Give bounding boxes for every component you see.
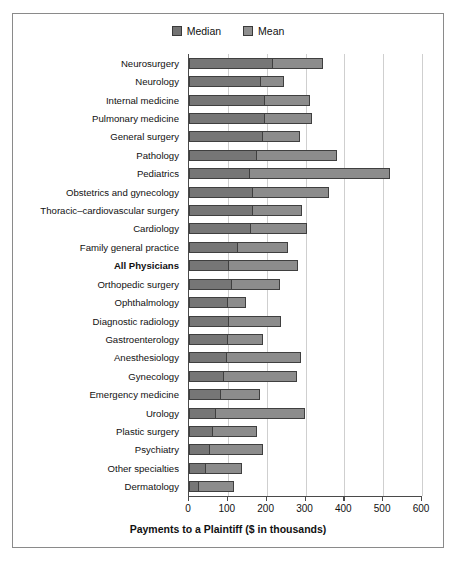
x-axis-tick (188, 496, 189, 501)
bar-segment-mean (199, 481, 234, 492)
bar-segment-median (189, 187, 253, 198)
bar-segment-mean (228, 297, 247, 308)
category-label: Internal medicine (106, 95, 179, 106)
bar-row[interactable] (189, 426, 257, 437)
bar-segment-median (189, 426, 213, 437)
bar-segment-median (189, 131, 263, 142)
bar-row[interactable] (189, 297, 246, 308)
x-axis-tick (266, 496, 267, 501)
category-label: Pathology (136, 150, 179, 161)
plot-area (188, 54, 421, 496)
x-axis-tick-label: 300 (296, 503, 313, 514)
x-axis-tick (382, 496, 383, 501)
bar-segment-median (189, 242, 238, 253)
chart-legend: Median Mean (13, 25, 443, 37)
category-label: Obstetrics and gynecology (66, 187, 179, 198)
bar-segment-median (189, 334, 228, 345)
legend-label-median: Median (187, 25, 221, 37)
category-label: Cardiology (133, 223, 179, 234)
bar-segment-mean (250, 168, 390, 179)
x-axis-tick-label: 200 (257, 503, 274, 514)
x-axis-tick-label: 400 (335, 503, 352, 514)
bar-segment-median (189, 316, 229, 327)
bar-segment-median (189, 279, 232, 290)
bar-row[interactable] (189, 223, 307, 234)
x-axis-tick (305, 496, 306, 501)
category-label: Emergency medicine (89, 389, 179, 400)
category-label: Other specialties (108, 463, 179, 474)
legend-item-median: Median (172, 25, 221, 37)
figure-panel: Median Mean NeurosurgeryNeurologyInterna… (12, 13, 444, 548)
bar-row[interactable] (189, 371, 297, 382)
x-axis-title: Payments to a Plaintiff ($ in thousands) (13, 523, 443, 535)
bar-segment-mean (216, 408, 305, 419)
bar-row[interactable] (189, 242, 288, 253)
bar-row[interactable] (189, 279, 280, 290)
bar-segment-median (189, 371, 224, 382)
bar-row[interactable] (189, 76, 284, 87)
bar-row[interactable] (189, 168, 390, 179)
bar-segment-mean (224, 371, 297, 382)
bar-segment-mean (263, 131, 301, 142)
bar-row[interactable] (189, 316, 281, 327)
x-axis-tick (343, 496, 344, 501)
bar-row[interactable] (189, 352, 301, 363)
legend-swatch-mean-icon (243, 26, 253, 36)
category-label: Gastroenterology (105, 334, 179, 345)
bar-row[interactable] (189, 113, 312, 124)
legend-item-mean: Mean (243, 25, 284, 37)
bar-segment-median (189, 352, 227, 363)
bar-row[interactable] (189, 187, 329, 198)
bar-segment-median (189, 76, 261, 87)
category-axis-labels: NeurosurgeryNeurologyInternal medicinePu… (13, 54, 184, 496)
bar-segment-median (189, 260, 229, 271)
category-label: Thoracic–cardiovascular surgery (40, 205, 179, 216)
x-axis-tick-label: 0 (185, 503, 191, 514)
category-label: Gynecology (128, 371, 179, 382)
bar-row[interactable] (189, 150, 337, 161)
bar-segment-mean (229, 316, 281, 327)
bar-segment-median (189, 150, 257, 161)
bar-segment-mean (265, 95, 310, 106)
category-label: General surgery (110, 131, 179, 142)
bar-segment-mean (273, 58, 323, 69)
bar-row[interactable] (189, 58, 323, 69)
bar-row[interactable] (189, 389, 260, 400)
category-label: Diagnostic radiology (93, 316, 179, 327)
x-axis-tick (227, 496, 228, 501)
bar-segment-mean (227, 352, 301, 363)
bar-segment-mean (232, 279, 281, 290)
category-label: Dermatology (125, 481, 179, 492)
bar-row[interactable] (189, 481, 234, 492)
bar-row[interactable] (189, 95, 310, 106)
legend-label-mean: Mean (258, 25, 284, 37)
x-axis-tick-label: 500 (374, 503, 391, 514)
bar-row[interactable] (189, 131, 300, 142)
category-label: Pulmonary medicine (92, 113, 179, 124)
bar-segment-mean (261, 76, 284, 87)
bar-row[interactable] (189, 408, 305, 419)
bar-segment-median (189, 408, 216, 419)
bar-segment-median (189, 223, 251, 234)
bar-row[interactable] (189, 444, 263, 455)
bar-segment-median (189, 481, 199, 492)
bar-series-group (189, 54, 421, 496)
bar-segment-median (189, 168, 250, 179)
bar-segment-median (189, 58, 273, 69)
bar-segment-mean (229, 260, 298, 271)
bar-segment-median (189, 113, 265, 124)
category-label: All Physicians (114, 260, 179, 271)
bar-segment-mean (206, 463, 242, 474)
bar-segment-mean (253, 187, 329, 198)
category-label: Ophthalmology (114, 297, 179, 308)
category-label: Neurosurgery (121, 58, 179, 69)
bar-segment-median (189, 463, 206, 474)
bar-row[interactable] (189, 260, 298, 271)
bar-row[interactable] (189, 334, 263, 345)
bar-row[interactable] (189, 205, 302, 216)
category-label: Neurology (135, 76, 179, 87)
bar-segment-mean (238, 242, 288, 253)
bar-row[interactable] (189, 463, 242, 474)
category-label: Anesthesiology (114, 352, 179, 363)
bar-segment-median (189, 205, 253, 216)
